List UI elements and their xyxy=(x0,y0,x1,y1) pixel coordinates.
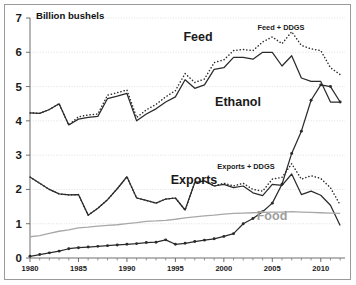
data-point xyxy=(48,251,51,254)
series-feed xyxy=(30,52,340,125)
data-point xyxy=(125,243,128,246)
data-point xyxy=(213,237,216,240)
x-axis-label-2010: 2010 xyxy=(312,264,329,273)
data-point xyxy=(174,243,177,246)
x-axis-labels: 1980198519901995200020052010 xyxy=(22,264,330,273)
x-axis-label-1995: 1995 xyxy=(167,264,185,273)
chart-figure: 01234567 1980198519901995200020052010 Fe… xyxy=(0,0,356,285)
data-point xyxy=(232,232,235,235)
series-line xyxy=(30,212,340,237)
data-point xyxy=(290,152,293,155)
series-ethanol xyxy=(29,83,342,257)
x-axis-label-2000: 2000 xyxy=(215,264,232,273)
series-line xyxy=(30,32,340,125)
x-axis-label-2005: 2005 xyxy=(264,264,282,273)
feed-label: Feed xyxy=(183,30,212,44)
feed-ddgs-label: Feed + DDGS xyxy=(257,23,304,32)
x-axis-label-1985: 1985 xyxy=(70,264,88,273)
ethanol-label: Ethanol xyxy=(215,95,261,109)
data-point xyxy=(193,240,196,243)
exports-label: Exports xyxy=(171,173,218,187)
y-tick-marks xyxy=(26,18,30,258)
data-point xyxy=(155,241,158,244)
data-point xyxy=(339,101,342,104)
data-point xyxy=(116,244,119,247)
y-axis-label-2: 2 xyxy=(16,183,22,195)
y-axis-label-7: 7 xyxy=(16,12,22,24)
y-axis-label-3: 3 xyxy=(16,149,22,161)
series-food xyxy=(30,212,340,237)
exports-ddgs-label: Exports + DDGS xyxy=(217,162,274,171)
x-tick-marks xyxy=(30,258,340,262)
series-exports-ddgs xyxy=(30,164,340,215)
data-point xyxy=(77,246,80,249)
data-point xyxy=(300,130,303,133)
data-point xyxy=(251,217,254,220)
data-point xyxy=(87,246,90,249)
x-axis-label-1990: 1990 xyxy=(118,264,135,273)
y-axis-labels: 01234567 xyxy=(16,12,23,264)
data-point xyxy=(222,235,225,238)
data-point xyxy=(310,99,313,102)
data-point xyxy=(58,250,61,253)
series-line xyxy=(30,85,340,256)
data-point xyxy=(106,244,109,247)
y-axis-label-6: 6 xyxy=(16,46,22,58)
data-point xyxy=(203,239,206,242)
data-point xyxy=(38,253,41,256)
data-point xyxy=(67,247,70,250)
series-line xyxy=(30,52,340,125)
data-point xyxy=(271,202,274,205)
data-series-layer xyxy=(29,32,342,258)
x-axis-label-1980: 1980 xyxy=(22,264,39,273)
data-point xyxy=(184,242,187,245)
y-axis-label-0: 0 xyxy=(16,252,22,264)
gridlines xyxy=(30,18,345,224)
data-point xyxy=(29,255,32,258)
food-label: Food xyxy=(257,209,288,223)
y-axis-label-4: 4 xyxy=(16,115,23,127)
data-point xyxy=(145,241,148,244)
chart-canvas: 01234567 1980198519901995200020052010 Fe… xyxy=(0,0,356,285)
y-axis-label-5: 5 xyxy=(16,81,23,93)
series-line xyxy=(30,164,340,215)
data-point xyxy=(96,245,99,248)
chart-title: Billion bushels xyxy=(36,10,104,21)
series-feed-ddgs xyxy=(30,32,340,125)
data-point xyxy=(329,85,332,88)
data-point xyxy=(319,83,322,86)
data-point xyxy=(135,242,138,245)
y-axis-label-1: 1 xyxy=(16,218,23,230)
data-point xyxy=(164,238,167,241)
data-point xyxy=(242,222,245,225)
